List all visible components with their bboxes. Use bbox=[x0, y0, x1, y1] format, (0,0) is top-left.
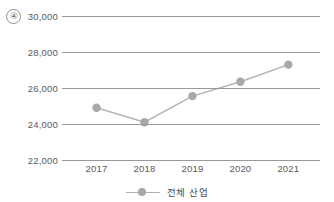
legend-marker-icon bbox=[126, 187, 160, 197]
y-axis-tick-label: 28,000 bbox=[14, 47, 58, 58]
chart-legend: 전체 산업 bbox=[0, 182, 334, 202]
y-axis-labels: 30,00028,00026,00024,00022,000 bbox=[14, 0, 58, 202]
gridline bbox=[62, 124, 320, 125]
y-axis-tick-label: 24,000 bbox=[14, 119, 58, 130]
y-axis-tick-label: 22,000 bbox=[14, 155, 58, 166]
x-axis-tick-label: 2017 bbox=[72, 163, 122, 174]
data-point-marker[interactable] bbox=[284, 60, 292, 68]
legend-label: 전체 산업 bbox=[167, 185, 209, 199]
data-point-marker[interactable] bbox=[140, 118, 148, 126]
gridline bbox=[62, 16, 320, 17]
data-point-marker[interactable] bbox=[92, 104, 100, 112]
data-point-marker[interactable] bbox=[188, 92, 196, 100]
gridline bbox=[62, 88, 320, 89]
y-axis-tick-label: 26,000 bbox=[14, 83, 58, 94]
line-chart-figure: ④ 30,00028,00026,00024,00022,000 2017201… bbox=[0, 0, 334, 202]
x-axis-labels: 20172018201920202021 bbox=[62, 163, 320, 179]
x-axis-tick-label: 2018 bbox=[119, 163, 169, 174]
gridline bbox=[62, 160, 320, 161]
data-point-marker[interactable] bbox=[236, 78, 244, 86]
x-axis-tick-label: 2020 bbox=[215, 163, 265, 174]
y-axis-tick-label: 30,000 bbox=[14, 11, 58, 22]
x-axis-tick-label: 2019 bbox=[167, 163, 217, 174]
x-axis-tick-label: 2021 bbox=[263, 163, 313, 174]
gridline bbox=[62, 52, 320, 53]
